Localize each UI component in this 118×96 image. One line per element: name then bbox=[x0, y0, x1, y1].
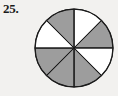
pie-chart-svg bbox=[33, 7, 115, 89]
figure-number-label: 25. bbox=[3, 2, 19, 16]
pie-chart bbox=[33, 7, 115, 89]
figure-panel: 25. bbox=[0, 0, 118, 96]
